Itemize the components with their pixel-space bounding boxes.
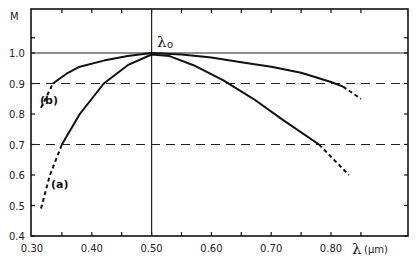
x-tick-label: 0.80 — [320, 243, 342, 254]
x-tick-label: 0.40 — [81, 243, 103, 254]
x-tick-label: 0.60 — [200, 243, 222, 254]
curve-a-dashed-left — [41, 145, 62, 209]
curve-b-label: (b) — [40, 94, 58, 107]
lambda0-subscript: o — [167, 39, 173, 50]
x-tick-label: 0.30 — [21, 243, 43, 254]
y-tick-label: 0.7 — [9, 140, 25, 151]
y-tick-label: 0.6 — [9, 170, 25, 181]
curve-b-dashed-right — [343, 87, 361, 99]
x-tick-label: 0.50 — [140, 243, 162, 254]
axes-frame — [31, 9, 408, 236]
curve-a-label: (a) — [51, 178, 68, 191]
x-axis-label-symbol: λ — [352, 240, 362, 258]
lambda0-label: λ — [157, 33, 167, 51]
plot-area: 0.40.50.60.70.80.91.00.300.400.500.600.7… — [9, 9, 408, 254]
x-axis-label-unit: (μm) — [364, 244, 388, 255]
y-tick-label: 0.4 — [9, 231, 25, 242]
chart: 0.40.50.60.70.80.91.00.300.400.500.600.7… — [0, 0, 416, 264]
y-tick-label: 1.0 — [9, 48, 25, 59]
y-tick-label: 0.9 — [9, 79, 25, 90]
x-tick-label: 0.70 — [260, 243, 282, 254]
y-axis-label: M — [10, 11, 19, 22]
y-tick-label: 0.8 — [9, 109, 25, 120]
curve-b-solid — [53, 53, 343, 87]
y-tick-label: 0.5 — [9, 201, 25, 212]
curve-a-dashed-right — [319, 145, 349, 176]
